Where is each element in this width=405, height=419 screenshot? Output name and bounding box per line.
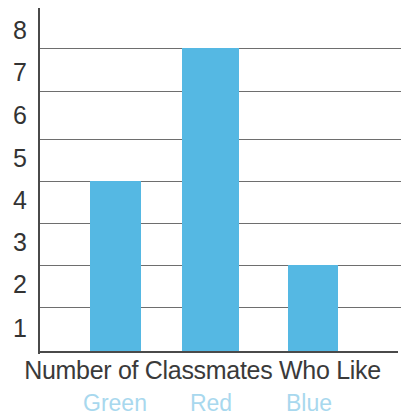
bar-chart-plot: 8 7 6 5 4 3 2 1 bbox=[0, 0, 405, 360]
bar-green bbox=[90, 181, 141, 352]
y-tick-2: 2 bbox=[8, 272, 32, 297]
y-tick-4: 4 bbox=[8, 188, 32, 213]
x-axis-line bbox=[38, 351, 398, 353]
category-label-blue: Blue bbox=[271, 390, 347, 416]
y-tick-8: 8 bbox=[8, 18, 32, 43]
category-label-red: Red bbox=[173, 390, 249, 416]
y-tick-7: 7 bbox=[8, 60, 32, 85]
category-label-row: Green Red Blue bbox=[38, 390, 398, 418]
chart-screenshot: 8 7 6 5 4 3 2 1 Number of Classmates Who… bbox=[0, 0, 405, 419]
x-axis-title: Number of Classmates Who Like bbox=[0, 355, 405, 385]
y-tick-1: 1 bbox=[8, 316, 32, 341]
bar-blue bbox=[288, 265, 338, 352]
y-tick-3: 3 bbox=[8, 230, 32, 255]
y-tick-5: 5 bbox=[8, 146, 32, 171]
y-tick-6: 6 bbox=[8, 103, 32, 128]
category-label-green: Green bbox=[76, 390, 154, 416]
y-axis-line bbox=[38, 8, 40, 354]
bar-red bbox=[182, 48, 239, 352]
